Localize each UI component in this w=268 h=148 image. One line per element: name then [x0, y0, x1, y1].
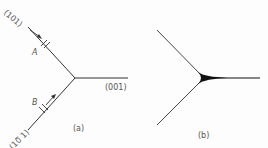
upper-boundary-b — [157, 30, 202, 76]
caption-b: (b) — [198, 131, 209, 140]
tick-b1 — [39, 107, 45, 113]
label-bottom-plane: (10̅ 1) — [8, 128, 31, 148]
caption-a: (a) — [73, 124, 84, 133]
label-right-plane: (001) — [105, 83, 127, 92]
cusp-junction-b — [198, 72, 260, 84]
label-b: B — [32, 98, 38, 107]
tick-b2 — [42, 104, 48, 110]
tick-a1 — [41, 40, 47, 46]
lower-boundary-b — [157, 80, 202, 125]
figure: (101) (10̅ 1) (001) A B (a) (b) — [0, 0, 268, 148]
panel-b: (b) — [157, 30, 260, 140]
label-a: A — [31, 48, 37, 57]
label-top-plane: (101) — [2, 8, 24, 29]
diagram-canvas: (101) (10̅ 1) (001) A B (a) (b) — [0, 0, 268, 148]
panel-a: (101) (10̅ 1) (001) A B (a) — [2, 8, 128, 148]
